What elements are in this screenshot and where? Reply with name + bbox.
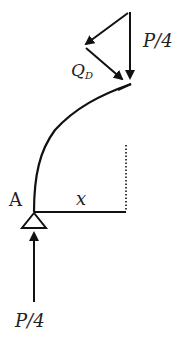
- distance-label: x: [76, 188, 86, 209]
- shear-component-arrow-icon: [86, 13, 128, 44]
- shear-force-label: QD: [71, 60, 93, 81]
- top-load-label: P/4: [143, 30, 173, 51]
- reaction-label: P/4: [15, 310, 45, 331]
- shear-force-main: Q: [71, 60, 85, 80]
- pin-support-icon: [22, 213, 46, 228]
- diagram-canvas: [0, 0, 180, 343]
- support-label: A: [9, 189, 22, 210]
- shear-force-subscript: D: [85, 70, 93, 81]
